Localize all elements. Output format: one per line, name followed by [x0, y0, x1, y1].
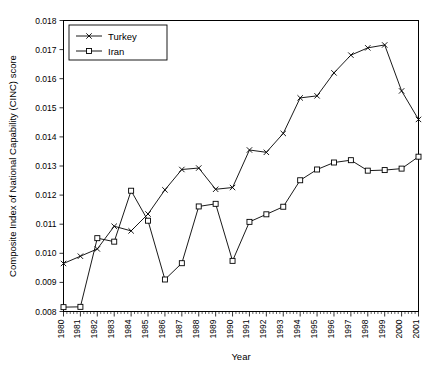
- x-tick-label: 1981: [72, 319, 82, 338]
- chart-legend: TurkeyIran: [69, 25, 167, 60]
- x-tick-label: 1992: [258, 319, 268, 338]
- x-tick-label: 1991: [241, 319, 251, 338]
- x-tick-label: 1983: [106, 319, 116, 338]
- cinc-score-line-chart: 0.0180.0170.0160.0150.0140.0130.0120.011…: [0, 0, 448, 372]
- data-point-marker-square: [146, 218, 151, 223]
- x-tick-label: 1999: [377, 319, 387, 338]
- y-tick-label: 0.016: [35, 74, 57, 84]
- x-tick-label: 1982: [89, 319, 99, 338]
- data-point-marker-square: [162, 277, 167, 282]
- x-tick-label: 2001: [411, 319, 421, 338]
- x-axis-title: Year: [231, 351, 250, 362]
- x-tick-label: 1990: [225, 319, 235, 338]
- data-point-marker-square: [416, 154, 421, 159]
- x-tick-label: 1980: [56, 319, 66, 338]
- data-point-marker-square: [179, 261, 184, 266]
- x-tick-label: 1993: [275, 319, 285, 338]
- data-point-marker-square: [264, 212, 269, 217]
- data-point-marker-square: [348, 158, 353, 163]
- y-tick-label: 0.014: [35, 132, 57, 142]
- data-point-marker-square: [331, 160, 336, 165]
- y-tick-label: 0.013: [35, 161, 57, 171]
- y-tick-label: 0.011: [36, 219, 57, 229]
- y-tick-label: 0.008: [35, 307, 57, 317]
- data-point-marker-square: [298, 178, 303, 183]
- x-tick-label: 1998: [360, 319, 370, 338]
- x-tick-label: 1989: [208, 319, 218, 338]
- data-point-marker-square: [196, 204, 201, 209]
- y-tick-label: 0.018: [35, 16, 57, 26]
- data-point-marker-square: [399, 166, 404, 171]
- y-tick-label: 0.015: [35, 103, 57, 113]
- legend-item-label: Turkey: [108, 31, 137, 42]
- data-point-marker-square: [87, 49, 92, 54]
- data-point-marker-square: [247, 219, 252, 224]
- data-point-marker-square: [95, 236, 100, 241]
- x-tick-label: 1988: [191, 319, 201, 338]
- y-tick-label: 0.017: [35, 45, 57, 55]
- y-axis-title: Composite Index of National Capability (…: [7, 55, 18, 277]
- data-point-marker-square: [382, 168, 387, 173]
- x-tick-label: 1984: [123, 319, 133, 338]
- chart-background: [0, 0, 448, 372]
- data-point-marker-square: [112, 239, 117, 244]
- chart-canvas: 0.0180.0170.0160.0150.0140.0130.0120.011…: [0, 0, 448, 372]
- x-tick-label: 1997: [343, 319, 353, 338]
- data-point-marker-square: [230, 258, 235, 263]
- x-tick-label: 1994: [292, 319, 302, 338]
- y-tick-label: 0.012: [35, 190, 57, 200]
- data-point-marker-square: [365, 168, 370, 173]
- data-point-marker-square: [315, 167, 320, 172]
- data-point-marker-square: [61, 305, 66, 310]
- y-tick-label: 0.009: [35, 277, 57, 287]
- data-point-marker-square: [281, 204, 286, 209]
- x-tick-label: 1996: [326, 319, 336, 338]
- x-tick-label: 1987: [174, 319, 184, 338]
- x-tick-label: 1995: [309, 319, 319, 338]
- x-tick-label: 2000: [394, 319, 404, 338]
- legend-item-label: Iran: [108, 46, 124, 57]
- x-tick-label: 1986: [157, 319, 167, 338]
- data-point-marker-square: [213, 201, 218, 206]
- y-tick-label: 0.010: [35, 248, 57, 258]
- data-point-marker-square: [129, 188, 134, 193]
- x-tick-label: 1985: [140, 319, 150, 338]
- data-point-marker-square: [78, 304, 83, 309]
